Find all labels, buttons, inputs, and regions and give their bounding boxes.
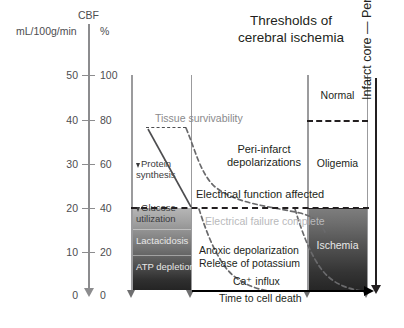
cbf-axis-arrowhead bbox=[84, 288, 94, 297]
label-time-to-cell-death: Time to cell death bbox=[219, 293, 301, 305]
label-protein-synthesis-line2: synthesis bbox=[136, 169, 176, 180]
label-calcium-influx: Ca⁺ influx bbox=[233, 276, 280, 288]
label-anoxic-line1: Anoxic depolarization bbox=[199, 244, 299, 256]
axis-label-left-0: 0 bbox=[52, 289, 78, 301]
severity-column-right-border bbox=[367, 75, 369, 291]
axis-label-right-100: 100 bbox=[100, 69, 118, 81]
axis-label-left-10: 10 bbox=[52, 246, 78, 258]
label-electrical-function-affected: Electrical function affected bbox=[196, 188, 324, 200]
label-glucose-utilization-line2: utilization bbox=[136, 213, 176, 224]
oligemia-threshold-line bbox=[307, 120, 368, 122]
penumbra-axis-line bbox=[375, 78, 377, 288]
label-peri-infarct-depolarizations: Peri-infarctdepolarizations bbox=[218, 143, 310, 170]
axis-label-right-0: 0 bbox=[100, 289, 106, 301]
axis-tick-60 bbox=[82, 164, 95, 165]
axis-label-right-80: 80 bbox=[100, 114, 112, 126]
metabolic-column-left-border bbox=[131, 75, 133, 291]
figure-title-line1: Thresholds of bbox=[250, 13, 332, 28]
axis-label-right-40: 40 bbox=[100, 202, 112, 214]
label-protein-synthesis-line1: Protein bbox=[141, 158, 171, 169]
label-atp-depletion: ATP depletion bbox=[136, 262, 195, 273]
ischemia-threshold-line bbox=[131, 207, 369, 209]
severity-column-left-border bbox=[307, 75, 309, 291]
axis-label-left-50: 50 bbox=[52, 69, 78, 81]
label-infarct-core-penumbra: Infarct core — Penumbra bbox=[360, 0, 374, 100]
label-electrical-failure-complete: Electrical failure complete bbox=[205, 216, 325, 228]
axis-label-left-20: 20 bbox=[52, 202, 78, 214]
axis-tick-40 bbox=[82, 208, 95, 209]
label-lactacidosis: Lactacidosis bbox=[136, 236, 188, 247]
cbf-unit-ml: mL/100g/min bbox=[16, 26, 77, 38]
axis-tick-100 bbox=[82, 75, 95, 76]
cbf-unit-percent: % bbox=[100, 26, 109, 38]
label-anoxic-depolarization: Anoxic depolarizationRelease of potassiu… bbox=[199, 244, 307, 270]
label-tissue-survivability: Tissue survivability bbox=[155, 113, 243, 125]
axis-tick-80 bbox=[82, 120, 95, 121]
figure-title: Thresholds of cerebral ischemia bbox=[196, 12, 386, 47]
label-peri-line2: depolarizations bbox=[227, 156, 301, 168]
axis-label-right-20: 20 bbox=[100, 246, 112, 258]
axis-label-left-40: 40 bbox=[52, 114, 78, 126]
axis-label-left-30: 30 bbox=[52, 158, 78, 170]
metabolic-column-down-arrow bbox=[127, 290, 135, 298]
axis-label-right-60: 60 bbox=[100, 158, 112, 170]
figure-root: Thresholds of cerebral ischemia CBF mL/1… bbox=[0, 0, 404, 328]
axis-tick-20 bbox=[82, 252, 95, 253]
down-arrow-icon bbox=[136, 163, 140, 168]
label-ischemia: Ischemia bbox=[308, 240, 367, 252]
label-normal: Normal bbox=[308, 90, 367, 102]
label-oligemia: Oligemia bbox=[308, 158, 367, 170]
metabolic-divider-atp bbox=[132, 255, 191, 256]
metabolic-divider-lactacidosis bbox=[132, 229, 191, 230]
figure-title-line2: cerebral ischemia bbox=[238, 30, 344, 45]
label-protein-synthesis: Proteinsynthesis bbox=[136, 159, 190, 181]
penumbra-axis-arrowhead bbox=[371, 285, 381, 294]
label-peri-line1: Peri-infarct bbox=[237, 143, 290, 155]
tissue-survivability-stub bbox=[146, 127, 186, 128]
cbf-axis-name: CBF bbox=[78, 10, 99, 22]
label-anoxic-line2: Release of potassium bbox=[199, 257, 300, 269]
